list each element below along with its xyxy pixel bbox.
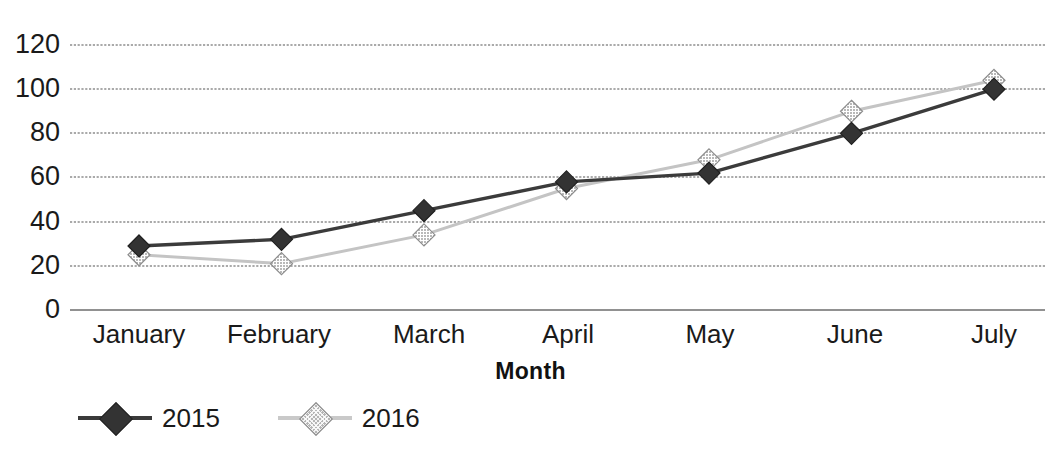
x-axis-title: Month xyxy=(0,358,1061,385)
x-axis-label-may: May xyxy=(685,320,734,348)
data-point-2015-june xyxy=(841,122,863,144)
legend-item-2015[interactable]: 2015 xyxy=(78,405,220,431)
x-axis-label-april: April xyxy=(542,320,594,348)
data-point-2015-february xyxy=(271,228,293,250)
x-axis-label-february: February xyxy=(227,320,331,348)
diamond-marker-icon xyxy=(99,402,133,436)
data-point-2015-may xyxy=(698,162,720,184)
data-point-2016-june xyxy=(841,100,863,122)
chart-legend: 2015 2016 xyxy=(78,398,420,438)
x-axis-label-july: July xyxy=(971,320,1017,348)
line-chart: 120 100 80 60 40 20 0 xyxy=(0,0,1061,469)
diamond-marker-icon xyxy=(299,402,333,436)
x-axis-label-january: January xyxy=(93,320,186,348)
legend-item-2016[interactable]: 2016 xyxy=(278,405,420,431)
legend-key-2016 xyxy=(278,407,352,429)
data-point-2016-march xyxy=(413,224,435,246)
legend-label-2016: 2016 xyxy=(362,405,420,431)
data-point-2015-march xyxy=(413,200,435,222)
data-point-2016-february xyxy=(271,253,293,275)
gridlines xyxy=(70,45,1045,310)
series-2015 xyxy=(128,78,1005,257)
x-axis-label-march: March xyxy=(393,320,465,348)
legend-label-2015: 2015 xyxy=(162,405,220,431)
series-2015-markers xyxy=(128,78,1005,257)
legend-key-2015 xyxy=(78,407,152,429)
x-axis-label-june: June xyxy=(827,320,883,348)
